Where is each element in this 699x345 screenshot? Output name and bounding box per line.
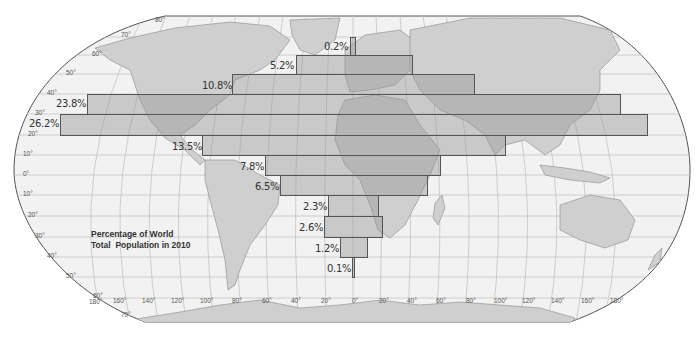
chart-title-line-2: Total Population in 2010 [91, 240, 191, 251]
bar-5.2 [296, 55, 413, 75]
lon-label-20w: 20° [321, 297, 331, 304]
lon-label-100w: 100° [200, 297, 213, 304]
bar-23.8 [87, 94, 621, 115]
lat-label-70n: 70° [121, 31, 131, 38]
lon-label-160w: 160° [113, 297, 126, 304]
bar-label-23.8: 23.8% [56, 98, 86, 109]
bar-7.8 [265, 155, 441, 176]
lat-label-10n: 10° [23, 150, 33, 157]
chart-title-line-1: Percentage of World [91, 229, 191, 240]
bar-label-26.2: 26.2% [29, 118, 59, 129]
bar-13.5 [202, 135, 506, 156]
bar-label-0.1: 0.1% [327, 263, 351, 274]
bar-6.5 [280, 175, 428, 196]
bar-0.2 [350, 37, 356, 56]
bar-label-7.8: 7.8% [240, 161, 264, 172]
lon-label-160e: 160° [581, 297, 594, 304]
lat-label-10s: 10° [23, 190, 33, 197]
bar-0.1 [352, 257, 355, 278]
lon-label-20e: 20° [379, 297, 389, 304]
lon-label-60e: 60° [436, 297, 446, 304]
lon-label-80w: 80° [232, 297, 242, 304]
bar-2.3 [328, 195, 379, 217]
lon-label-140e: 140° [551, 297, 564, 304]
lat-label-30n: 30° [35, 109, 45, 116]
lat-label-0: 0° [23, 170, 29, 177]
bar-label-5.2: 5.2% [270, 60, 294, 71]
lon-label-0: 0° [352, 297, 358, 304]
lon-label-140w: 140° [142, 297, 155, 304]
bar-label-6.5: 6.5% [255, 181, 279, 192]
lat-label-20n: 20° [28, 130, 38, 137]
bar-label-0.2: 0.2% [324, 41, 348, 52]
lon-label-80e: 80° [466, 297, 476, 304]
bar-26.2 [60, 114, 648, 136]
bar-2.6 [324, 216, 383, 238]
lat-label-30s: 30° [35, 232, 45, 239]
lat-label-50n: 50° [66, 69, 76, 76]
bar-label-2.3: 2.3% [303, 201, 327, 212]
bar-label-2.6: 2.6% [299, 222, 323, 233]
lat-label-40n: 40° [47, 89, 57, 96]
bar-label-1.2: 1.2% [315, 243, 339, 254]
lon-label-40w: 40° [291, 297, 301, 304]
lat-label-80n: 80° [155, 16, 165, 23]
bar-1.2 [340, 237, 368, 258]
chart-title: Percentage of World Total Population in … [91, 229, 191, 251]
lat-label-70s: 70° [121, 311, 131, 318]
bar-10.8 [232, 74, 475, 95]
lon-label-120e: 120° [522, 297, 535, 304]
lon-label-120w: 120° [171, 297, 184, 304]
bar-label-10.8: 10.8% [202, 80, 232, 91]
lat-label-40s: 40° [47, 252, 57, 259]
lat-label-50s: 50° [66, 272, 76, 279]
lat-label-20s: 20° [28, 211, 38, 218]
lat-label-60n: 60° [92, 50, 102, 57]
lon-label-100e: 100° [494, 297, 507, 304]
lon-label-180w: 180° [89, 298, 102, 305]
lon-label-60w: 60° [262, 297, 272, 304]
lon-label-180e: 180° [610, 297, 623, 304]
bar-label-13.5: 13.5% [172, 141, 202, 152]
lon-label-40e: 40° [407, 297, 417, 304]
